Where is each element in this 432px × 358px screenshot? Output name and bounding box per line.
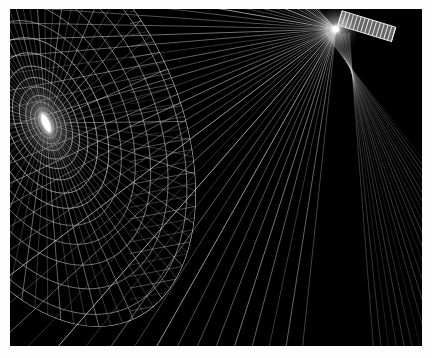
figure-frame	[10, 9, 422, 346]
page-root	[0, 0, 432, 358]
figure-canvas	[10, 9, 422, 346]
